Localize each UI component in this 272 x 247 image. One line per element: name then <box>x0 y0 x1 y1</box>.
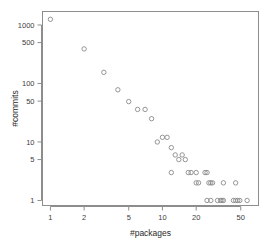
scatter-plot: 1251020501510501005001000#packages#commi… <box>0 0 272 247</box>
x-tick-label: 1 <box>48 213 52 222</box>
data-point <box>102 70 106 74</box>
x-tick-label: 2 <box>82 213 86 222</box>
data-point <box>48 17 52 21</box>
x-tick-label: 5 <box>127 213 131 222</box>
data-point <box>221 181 225 185</box>
y-tick-label: 1000 <box>18 21 35 30</box>
data-point <box>155 140 159 144</box>
y-axis-title: #commits <box>10 90 20 126</box>
data-point <box>165 135 169 139</box>
data-point <box>189 170 193 174</box>
data-point <box>194 170 198 174</box>
data-point <box>233 181 237 185</box>
data-point <box>127 99 131 103</box>
x-tick-label: 20 <box>192 213 200 222</box>
y-tick-label: 5 <box>30 155 34 164</box>
data-point <box>143 107 147 111</box>
data-point <box>183 157 187 161</box>
y-tick-label: 10 <box>26 138 34 147</box>
data-point <box>245 198 249 202</box>
x-tick-label: 10 <box>158 213 166 222</box>
data-point <box>82 47 86 51</box>
data-point <box>160 135 164 139</box>
data-point <box>169 145 173 149</box>
data-point <box>135 107 139 111</box>
data-point <box>173 153 177 157</box>
data-point <box>149 116 153 120</box>
y-tick-label: 50 <box>26 97 34 106</box>
data-point <box>116 88 120 92</box>
x-axis-title: #packages <box>130 228 171 238</box>
y-tick-label: 100 <box>22 79 35 88</box>
y-tick-label: 1 <box>30 196 34 205</box>
chart-figure: 1251020501510501005001000#packages#commi… <box>0 0 272 247</box>
data-point <box>177 157 181 161</box>
data-point <box>180 153 184 157</box>
x-tick-label: 50 <box>237 213 245 222</box>
y-tick-label: 500 <box>22 38 35 47</box>
data-point-group <box>48 17 249 203</box>
data-point <box>169 170 173 174</box>
plot-frame <box>43 12 259 206</box>
